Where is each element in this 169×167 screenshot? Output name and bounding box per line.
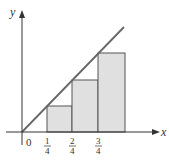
tick-label-3-4: 3 4 <box>95 136 102 156</box>
origin-label: 0 <box>26 136 32 148</box>
svg-text:4: 4 <box>96 146 101 156</box>
svg-text:3: 3 <box>96 136 101 146</box>
svg-text:4: 4 <box>70 146 75 156</box>
y-axis-label: y <box>9 5 16 19</box>
bar-2 <box>72 80 98 132</box>
x-axis-arrow-icon <box>152 129 160 135</box>
x-axis-label: x <box>160 125 167 139</box>
tick-label-2-4: 2 4 <box>69 136 76 156</box>
riemann-sum-diagram: x y 0 1 4 2 4 3 4 <box>0 0 169 167</box>
svg-text:2: 2 <box>70 136 75 146</box>
svg-text:1: 1 <box>45 136 50 146</box>
bar-3 <box>98 53 125 132</box>
y-axis-arrow-icon <box>19 10 25 18</box>
bar-1 <box>47 106 72 132</box>
svg-text:4: 4 <box>45 146 50 156</box>
diagram-canvas: x y 0 1 4 2 4 3 4 <box>0 0 169 167</box>
tick-label-1-4: 1 4 <box>44 136 51 156</box>
